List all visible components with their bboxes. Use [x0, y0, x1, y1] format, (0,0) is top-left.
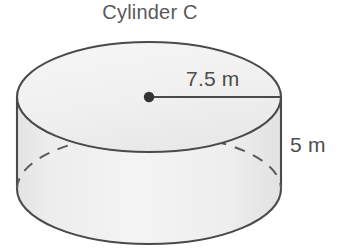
- center-point-dot: [144, 92, 154, 102]
- figure-title: Cylinder C: [0, 2, 300, 22]
- radius-measurement-label: 7.5 m: [186, 68, 240, 89]
- height-measurement-label: 5 m: [290, 134, 326, 155]
- cylinder-drawing: [0, 0, 339, 252]
- cylinder-figure: Cylinder C 7.5 m 5 m: [0, 0, 339, 252]
